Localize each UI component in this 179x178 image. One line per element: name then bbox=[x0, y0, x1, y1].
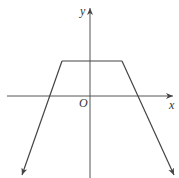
left-ray bbox=[22, 61, 62, 175]
graph-svg bbox=[0, 0, 179, 178]
right-ray bbox=[122, 61, 174, 175]
y-axis-label: y bbox=[80, 5, 85, 17]
diagram-canvas: y x O bbox=[0, 0, 179, 178]
origin-label: O bbox=[79, 97, 88, 109]
x-axis-label: x bbox=[169, 99, 174, 111]
